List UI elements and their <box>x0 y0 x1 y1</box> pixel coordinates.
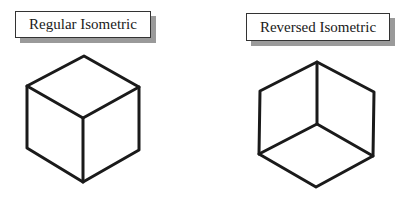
isometric-diagrams <box>0 0 410 199</box>
reversed-isometric-cube <box>259 62 374 187</box>
cube-inner-edges <box>259 124 373 156</box>
cube-inner-edges <box>27 86 139 118</box>
regular-isometric-cube <box>27 56 139 182</box>
